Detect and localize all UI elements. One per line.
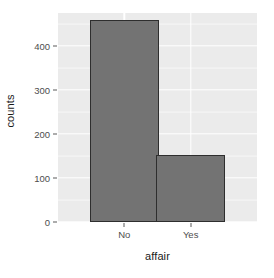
x-axis-title: affair <box>58 250 257 262</box>
y-tick-label: 0 <box>18 217 50 228</box>
y-tick-label: 200 <box>18 129 50 140</box>
y-tick-mark <box>53 222 57 223</box>
y-tick-mark <box>53 90 57 91</box>
bar-chart: counts 4003002001000 NoYes affair <box>0 0 274 278</box>
y-tick-mark <box>53 178 57 179</box>
x-tick-label: Yes <box>183 229 199 240</box>
y-axis-title: counts <box>0 0 18 222</box>
plot-panel <box>58 13 257 222</box>
y-tick-label: 400 <box>18 41 50 52</box>
x-tick-mark <box>190 223 191 227</box>
y-tick-mark <box>53 46 57 47</box>
y-tick-label: 300 <box>18 85 50 96</box>
bar-yes <box>156 155 225 222</box>
x-tick-label: No <box>118 229 130 240</box>
y-axis-tick-labels: 4003002001000 <box>18 13 50 222</box>
y-tick-label: 100 <box>18 173 50 184</box>
x-axis-tick-labels: NoYes <box>58 229 257 245</box>
y-tick-mark <box>53 134 57 135</box>
y-axis-title-text: counts <box>3 94 15 127</box>
bar-no <box>90 20 159 222</box>
x-axis-tick-marks <box>58 222 257 228</box>
x-tick-mark <box>124 223 125 227</box>
